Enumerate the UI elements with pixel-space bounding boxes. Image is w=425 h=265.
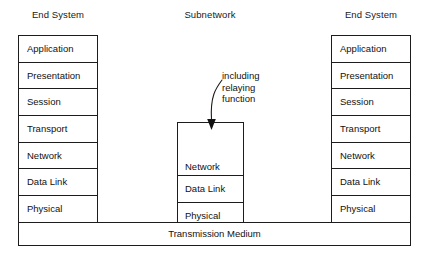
layer-presentation: Presentation bbox=[19, 63, 97, 90]
annotation-line-1: including bbox=[222, 70, 260, 82]
stack-right-end-system: Application Presentation Session Transpo… bbox=[331, 35, 411, 223]
transmission-medium-bar: Transmission Medium bbox=[18, 222, 411, 246]
layer-data-link: Data Link bbox=[178, 176, 243, 203]
layer-data-link: Data Link bbox=[19, 169, 97, 196]
layer-presentation: Presentation bbox=[332, 63, 410, 90]
column-title-right-end-system: End System bbox=[331, 9, 411, 20]
layer-physical: Physical bbox=[19, 196, 97, 223]
layer-transport: Transport bbox=[332, 116, 410, 143]
layer-network: Network bbox=[19, 143, 97, 170]
layer-application: Application bbox=[332, 36, 410, 63]
annotation-relaying-function: including relaying function bbox=[222, 70, 260, 105]
stack-left-end-system: Application Presentation Session Transpo… bbox=[18, 35, 98, 223]
layer-data-link: Data Link bbox=[332, 169, 410, 196]
layer-physical: Physical bbox=[332, 196, 410, 223]
layer-application: Application bbox=[19, 36, 97, 63]
column-title-left-end-system: End System bbox=[18, 9, 98, 20]
layer-network: Network bbox=[178, 123, 243, 176]
layer-transport: Transport bbox=[19, 116, 97, 143]
column-title-subnetwork: Subnetwork bbox=[170, 9, 250, 20]
annotation-line-3: function bbox=[222, 93, 260, 105]
layer-session: Session bbox=[19, 89, 97, 116]
osi-layering-diagram: End System Subnetwork End System Applica… bbox=[0, 0, 425, 265]
layer-session: Session bbox=[332, 89, 410, 116]
annotation-line-2: relaying bbox=[222, 82, 260, 94]
stack-subnetwork: Network Data Link Physical bbox=[177, 122, 244, 230]
layer-network: Network bbox=[332, 143, 410, 170]
